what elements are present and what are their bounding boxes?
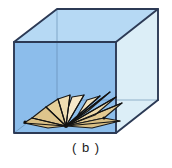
figure-caption: ( b ) — [0, 140, 172, 155]
fan-marker-left — [24, 121, 27, 124]
fan-apex-point — [64, 124, 68, 128]
figure-container: ( b ) — [0, 0, 172, 168]
fan-marker-right — [103, 117, 106, 120]
